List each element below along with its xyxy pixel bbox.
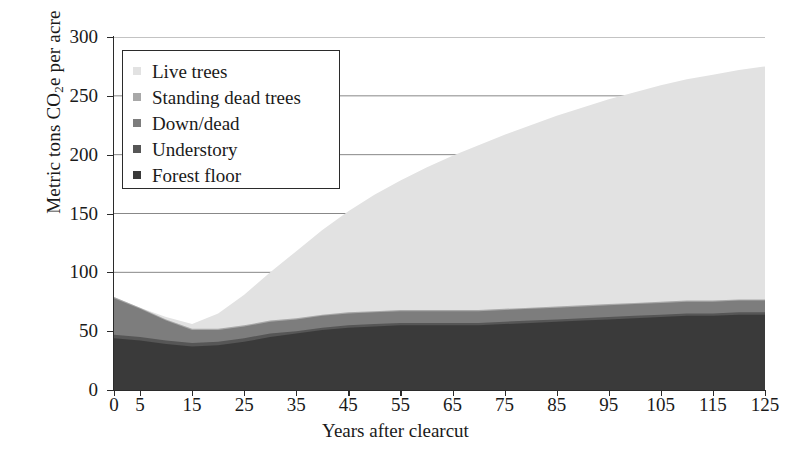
legend-swatch-icon: [133, 93, 141, 101]
x-tick-label: 55: [380, 395, 420, 414]
x-tick-mark: [348, 390, 349, 396]
y-tick-label: 250: [38, 86, 98, 105]
legend-item[interactable]: Forest floor: [133, 162, 339, 188]
x-tick-label: 85: [537, 395, 577, 414]
legend-item-label: Forest floor: [152, 166, 241, 185]
legend-box: Live treesStanding dead treesDown/deadUn…: [122, 50, 340, 189]
legend-item-label: Live trees: [152, 62, 227, 81]
legend-item-label: Standing dead trees: [152, 88, 301, 107]
y-tick-label: 150: [38, 204, 98, 223]
x-tick-label: 95: [589, 395, 629, 414]
x-tick-label: 5: [120, 395, 160, 414]
x-tick-mark: [713, 390, 714, 396]
y-tick-label: 100: [38, 262, 98, 281]
x-tick-mark: [609, 390, 610, 396]
y-tick-label: 50: [38, 321, 98, 340]
legend-swatch-icon: [133, 145, 141, 153]
y-axis-line: [113, 36, 114, 391]
legend-item[interactable]: Down/dead: [133, 110, 339, 136]
x-tick-mark: [505, 390, 506, 396]
x-tick-mark: [192, 390, 193, 396]
x-tick-label: 125: [745, 395, 785, 414]
x-tick-mark: [296, 390, 297, 396]
x-tick-mark: [140, 390, 141, 396]
x-tick-mark: [400, 390, 401, 396]
x-tick-label: 15: [172, 395, 212, 414]
legend-item[interactable]: Standing dead trees: [133, 84, 339, 110]
x-tick-label: 105: [641, 395, 681, 414]
x-tick-label: 45: [328, 395, 368, 414]
y-tick-label: 200: [38, 145, 98, 164]
legend-item[interactable]: Live trees: [133, 58, 339, 84]
y-axis-title-post: e per acre: [43, 10, 64, 86]
x-tick-mark: [765, 390, 766, 396]
legend-item-label: Down/dead: [152, 114, 240, 133]
x-axis-line: [113, 390, 766, 391]
x-tick-label: 75: [485, 395, 525, 414]
y-tick-label: 0: [38, 380, 98, 399]
y-tick-label: 300: [38, 27, 98, 46]
x-tick-label: 115: [693, 395, 733, 414]
x-tick-mark: [557, 390, 558, 396]
x-tick-label: 25: [224, 395, 264, 414]
x-tick-mark: [244, 390, 245, 396]
x-axis-title: Years after clearcut: [0, 420, 791, 442]
x-tick-label: 65: [433, 395, 473, 414]
legend-swatch-icon: [133, 119, 141, 127]
figure-canvas: Metric tons CO2e per acre Years after cl…: [0, 0, 791, 458]
legend-item-label: Understory: [152, 140, 237, 159]
legend-item[interactable]: Understory: [133, 136, 339, 162]
x-tick-mark: [453, 390, 454, 396]
x-tick-mark: [661, 390, 662, 396]
legend-swatch-icon: [133, 171, 141, 179]
legend-swatch-icon: [133, 67, 141, 75]
x-tick-label: 35: [276, 395, 316, 414]
